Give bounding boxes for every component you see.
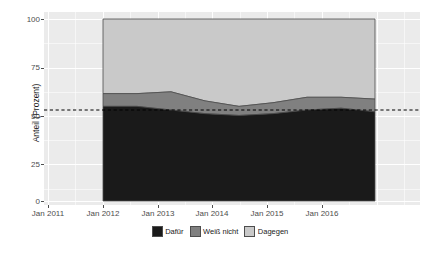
legend-label-weiss-nicht: Weiß nicht — [203, 227, 238, 236]
x-tick-mark-jan2015 — [267, 205, 268, 208]
x-tick-label-jan2011: Jan 2011 — [18, 210, 78, 218]
x-tick-label-jan2015: Jan 2015 — [237, 210, 297, 218]
y-tick-label-50: 50 — [14, 113, 40, 121]
x-tick-mark-jan2016 — [322, 205, 323, 208]
x-tick-mark-jan2012 — [103, 205, 104, 208]
x-tick-label-jan2013: Jan 2013 — [128, 210, 188, 218]
chart-legend: Dafür Weiß nicht Dagegen — [0, 226, 440, 237]
legend-item-weiss-nicht[interactable]: Weiß nicht — [190, 226, 239, 237]
x-tick-mark-jan2014 — [212, 205, 213, 208]
x-tick-label-jan2014: Jan 2014 — [182, 210, 242, 218]
plot-panel — [44, 12, 420, 205]
y-tick-label-100: 100 — [14, 16, 40, 24]
x-tick-label-jan2012: Jan 2012 — [73, 210, 133, 218]
legend-swatch-dafuer — [152, 226, 163, 237]
stacked-area-series — [44, 12, 420, 205]
y-tick-label-25: 25 — [14, 161, 40, 169]
y-tick-label-0: 0 — [14, 198, 40, 206]
y-axis-tick-labels: 100 75 50 25 0 — [14, 0, 40, 257]
legend-label-dafuer: Dafür — [165, 227, 183, 236]
area-dafuer — [103, 106, 375, 201]
chart-root: Anteil (Prozent) 100 75 50 25 0 — [0, 0, 440, 257]
legend-item-dafuer[interactable]: Dafür — [152, 226, 184, 237]
legend-label-dagegen: Dagegen — [258, 227, 288, 236]
legend-item-dagegen[interactable]: Dagegen — [244, 226, 288, 237]
y-tick-label-75: 75 — [14, 64, 40, 72]
x-tick-label-jan2016: Jan 2016 — [292, 210, 352, 218]
x-tick-mark-jan2013 — [158, 205, 159, 208]
legend-swatch-weiss-nicht — [190, 226, 201, 237]
legend-swatch-dagegen — [244, 226, 255, 237]
x-tick-mark-jan2011 — [48, 205, 49, 208]
